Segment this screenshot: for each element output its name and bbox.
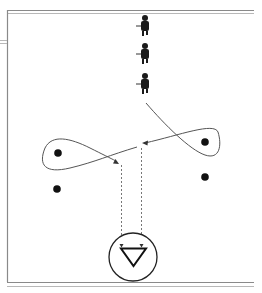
- skater-icon[interactable]: [136, 43, 149, 64]
- marker-dot: [201, 173, 209, 181]
- pass-lines: [122, 148, 142, 240]
- goal-circle: [109, 233, 157, 281]
- skater-group: [136, 15, 149, 94]
- marker-dot: [201, 138, 209, 146]
- marker-dot: [53, 185, 61, 193]
- skating-path: [42, 103, 219, 170]
- skater-icon[interactable]: [136, 15, 149, 36]
- drill-diagram: [0, 0, 262, 293]
- skater-icon[interactable]: [136, 73, 149, 94]
- path-right-loop: [145, 103, 220, 156]
- goal: [109, 233, 157, 281]
- marker-group: [53, 138, 209, 193]
- arrowhead-icon: [142, 141, 148, 146]
- marker-dot: [54, 149, 62, 157]
